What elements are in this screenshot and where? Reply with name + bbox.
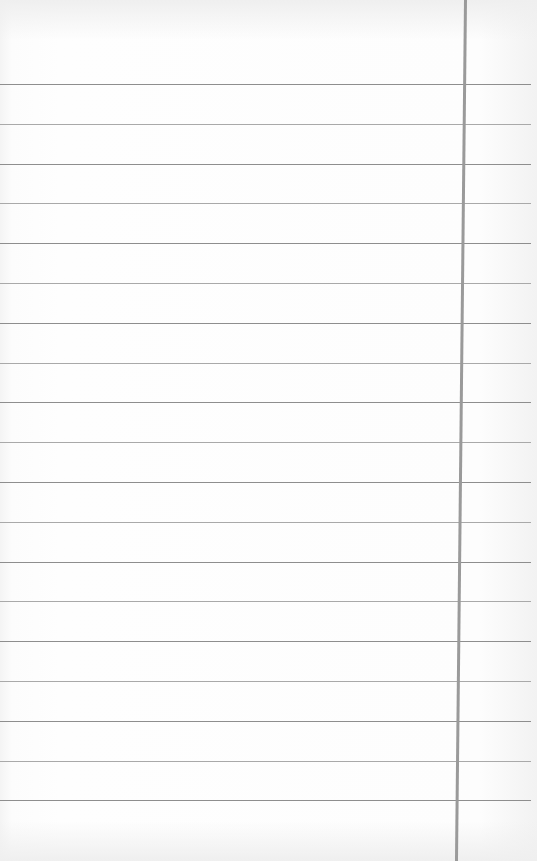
ruled-line — [0, 203, 531, 204]
ruled-line — [0, 482, 531, 483]
ruled-line — [0, 442, 531, 443]
ruled-line — [0, 641, 531, 642]
ruled-line — [0, 164, 531, 165]
ruled-line — [0, 761, 531, 762]
ruled-line — [0, 363, 531, 364]
notebook-page — [0, 0, 537, 861]
ruled-line — [0, 323, 531, 324]
ruled-line — [0, 601, 531, 602]
ruled-line — [0, 124, 531, 125]
ruled-line — [0, 681, 531, 682]
margin-line — [455, 0, 467, 861]
ruled-line — [0, 243, 531, 244]
ruled-line — [0, 283, 531, 284]
top-shading — [0, 0, 537, 40]
ruled-line — [0, 402, 531, 403]
ruled-line — [0, 800, 531, 801]
ruled-line — [0, 522, 531, 523]
ruled-line — [0, 562, 531, 563]
ruled-line — [0, 721, 531, 722]
ruled-line — [0, 84, 531, 85]
